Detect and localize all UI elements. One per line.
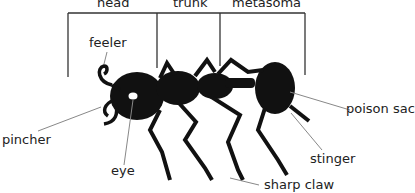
label-eye: eye: [111, 164, 135, 177]
label-pincher: pincher: [2, 133, 51, 146]
ant-silhouette: [99, 60, 309, 180]
label-stinger: stinger: [310, 152, 355, 165]
section-label-trunk: trunk: [173, 0, 207, 9]
label-poison-sac: poison sac: [346, 102, 415, 115]
ant-eye: [129, 93, 138, 100]
label-sharp-claw: sharp claw: [264, 178, 334, 191]
section-label-head: head: [97, 0, 129, 9]
label-feeler: feeler: [89, 36, 127, 49]
section-label-metasoma: metasoma: [232, 0, 301, 9]
